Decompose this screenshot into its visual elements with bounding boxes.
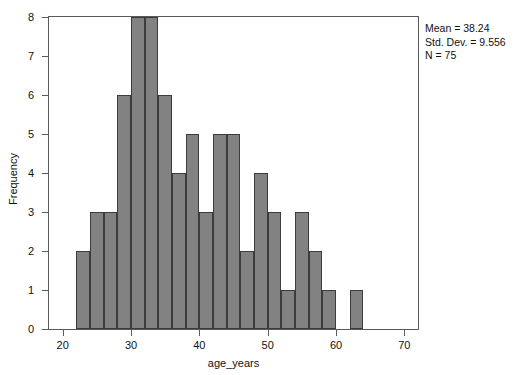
x-axis: age_years 203040506070 xyxy=(0,330,519,375)
histogram-bar xyxy=(104,212,118,329)
x-tick-label: 50 xyxy=(262,340,274,351)
x-tick-label: 60 xyxy=(330,340,342,351)
x-tick-label: 70 xyxy=(398,340,410,351)
mean-label: Mean = 38.24 xyxy=(425,22,506,36)
x-tick-label: 40 xyxy=(193,340,205,351)
histogram-bar xyxy=(172,173,186,329)
y-tick-label: 4 xyxy=(28,168,34,179)
histogram-bar xyxy=(254,173,268,329)
y-tick-label: 8 xyxy=(28,12,34,23)
y-tick-label: 1 xyxy=(28,285,34,296)
histogram-bar xyxy=(186,134,200,329)
histogram-bar xyxy=(76,251,90,329)
y-tick-mark xyxy=(42,17,48,18)
y-tick-mark xyxy=(42,134,48,135)
x-tick-mark xyxy=(336,330,337,336)
histogram-bar xyxy=(240,251,254,329)
histogram-bar xyxy=(281,290,295,329)
histogram-bar xyxy=(131,17,145,329)
x-tick-mark xyxy=(131,330,132,336)
histogram-bar xyxy=(309,251,323,329)
x-tick-mark xyxy=(199,330,200,336)
histogram-bar xyxy=(350,290,364,329)
plot-area xyxy=(49,17,418,329)
x-axis-title: age_years xyxy=(49,357,418,369)
x-tick-mark xyxy=(404,330,405,336)
y-tick-label: 5 xyxy=(28,129,34,140)
std-dev-label: Std. Dev. = 9.556 xyxy=(425,36,506,50)
histogram-bar xyxy=(213,134,227,329)
x-tick-mark xyxy=(268,330,269,336)
y-tick-mark xyxy=(42,290,48,291)
histogram-bar xyxy=(199,212,213,329)
histogram-bar xyxy=(268,212,282,329)
histogram-chart: 012345678 Frequency age_years 2030405060… xyxy=(0,0,519,375)
histogram-bar xyxy=(90,212,104,329)
histogram-bars xyxy=(49,17,418,329)
y-tick-mark xyxy=(42,95,48,96)
histogram-bar xyxy=(322,290,336,329)
histogram-bar xyxy=(145,17,159,329)
histogram-bar xyxy=(227,134,241,329)
y-tick-label: 2 xyxy=(28,246,34,257)
y-tick-mark xyxy=(42,251,48,252)
histogram-bar xyxy=(295,212,309,329)
histogram-bar xyxy=(117,95,131,329)
y-tick-label: 6 xyxy=(28,90,34,101)
x-tick-label: 30 xyxy=(125,340,137,351)
x-tick-mark xyxy=(63,330,64,336)
statistics-annotation: Mean = 38.24 Std. Dev. = 9.556 N = 75 xyxy=(425,22,506,63)
histogram-bar xyxy=(158,95,172,329)
y-tick-mark xyxy=(42,212,48,213)
y-tick-mark xyxy=(42,173,48,174)
y-tick-label: 3 xyxy=(28,207,34,218)
y-axis-title: Frequency xyxy=(7,119,19,239)
y-tick-label: 7 xyxy=(28,51,34,62)
y-tick-mark xyxy=(42,56,48,57)
x-tick-label: 20 xyxy=(57,340,69,351)
n-label: N = 75 xyxy=(425,49,506,63)
